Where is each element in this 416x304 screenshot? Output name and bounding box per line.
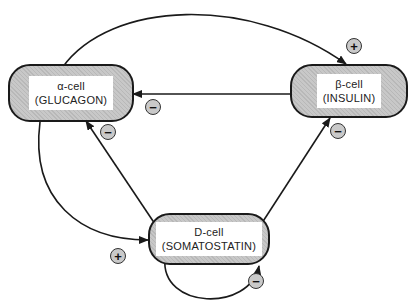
- delta-cell-name: D-cell: [162, 225, 256, 239]
- beta-cell-name: β-cell: [323, 77, 376, 91]
- minus-sign-icon: −: [330, 123, 346, 139]
- beta-cell-node: β-cell (INSULIN): [290, 64, 408, 118]
- alpha-cell-node: α-cell (GLUCAGON): [8, 64, 134, 122]
- delta-cell-label: D-cell (SOMATOSTATIN): [156, 222, 262, 256]
- plus-sign-icon: +: [346, 38, 362, 54]
- alpha-cell-label: α-cell (GLUCAGON): [29, 76, 113, 110]
- edge-alpha-to-beta: [62, 15, 346, 68]
- delta-cell-node: D-cell (SOMATOSTATIN): [148, 213, 270, 265]
- beta-cell-hormone: (INSULIN): [323, 91, 376, 105]
- beta-cell-label: β-cell (INSULIN): [317, 74, 382, 108]
- edge-delta-to-beta: [260, 118, 330, 226]
- minus-sign-icon: −: [145, 99, 161, 115]
- delta-cell-hormone: (SOMATOSTATIN): [162, 239, 256, 253]
- edge-alpha-to-delta: [39, 122, 148, 240]
- minus-sign-icon: −: [248, 273, 264, 289]
- alpha-cell-name: α-cell: [35, 79, 107, 93]
- alpha-cell-hormone: (GLUCAGON): [35, 93, 107, 107]
- minus-sign-icon: −: [100, 124, 116, 140]
- edge-delta-to-alpha: [86, 121, 157, 227]
- plus-sign-icon: +: [110, 248, 126, 264]
